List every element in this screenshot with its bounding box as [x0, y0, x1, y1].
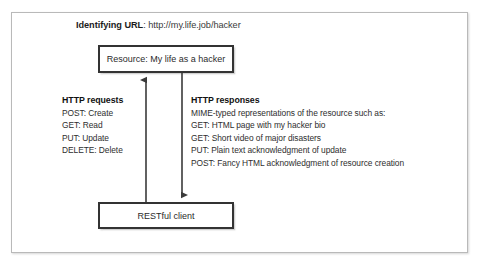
http-requests-line: GET: Read [62, 119, 123, 131]
rest-architecture-diagram: Identifying URL: http://my.life.job/hack… [0, 0, 484, 263]
http-requests-block: HTTP requests POST: Create GET: Read PUT… [62, 94, 123, 157]
identifying-url-caption: Identifying URL: http://my.life.job/hack… [76, 19, 241, 31]
http-responses-line: MIME-typed representations of the resour… [191, 107, 404, 119]
http-responses-line: POST: Fancy HTML acknowledgment of resou… [191, 157, 404, 169]
resource-node-label: Resource: My life as a hacker [107, 54, 226, 64]
identifying-url-value: http://my.life.job/hacker [148, 20, 241, 30]
http-responses-line: PUT: Plain text acknowledgment of update [191, 144, 404, 156]
http-requests-line: POST: Create [62, 107, 123, 119]
identifying-url-label: Identifying URL [76, 20, 143, 30]
http-responses-line: GET: Short video of major disasters [191, 132, 404, 144]
restful-client-node: RESTful client [98, 202, 234, 229]
http-requests-heading: HTTP requests [62, 94, 123, 106]
restful-client-node-label: RESTful client [137, 211, 194, 221]
http-responses-block: HTTP responses MIME-typed representation… [191, 94, 404, 169]
http-requests-line: DELETE: Delete [62, 144, 123, 156]
http-responses-heading: HTTP responses [191, 94, 404, 106]
http-requests-line: PUT: Update [62, 132, 123, 144]
resource-node: Resource: My life as a hacker [98, 45, 234, 73]
http-responses-line: GET: HTML page with my hacker bio [191, 119, 404, 131]
